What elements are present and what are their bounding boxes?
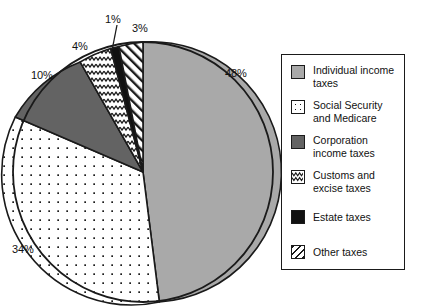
legend-item-estate-taxes[interactable]: Estate taxes [291,204,400,230]
legend-item-corporation-income-taxes[interactable]: Corporation income taxes [291,134,400,160]
legend-item-other-taxes[interactable]: Other taxes [291,239,400,265]
legend-swatch-solid-dark-gray-icon [291,135,305,149]
pie-slice-individual-income-taxes[interactable] [143,42,281,302]
legend-label-estate-taxes: Estate taxes [313,211,371,224]
legend-item-customs-and-excise-taxes[interactable]: Customs and excise taxes [291,169,400,195]
chart-legend: Individual income taxes Social Security … [281,54,405,270]
slice-label-corporation-income-taxes: 10% [31,69,53,81]
legend-swatch-solid-black-icon [291,210,305,224]
legend-label-customs-and-excise-taxes: Customs and excise taxes [313,169,375,194]
pie-svg [0,0,290,307]
pie-chart-figure: 48% 34% 10% 4% 1% 3% Individual income t… [0,0,424,307]
pie-chart-plot-area: 48% 34% 10% 4% 1% 3% [0,0,290,307]
slice-label-customs-and-excise-taxes: 4% [72,40,88,52]
legend-item-list: Individual income taxes Social Security … [291,64,400,265]
legend-swatch-solid-light-gray-icon [291,65,305,79]
slice-label-social-security-and-medicare: 34% [12,243,34,255]
legend-label-individual-income-taxes: Individual income taxes [313,64,394,89]
legend-label-other-taxes: Other taxes [313,246,367,259]
legend-label-social-security-and-medicare: Social Security and Medicare [313,99,382,124]
slice-label-estate-taxes: 1% [105,13,121,25]
legend-swatch-diagonal-hatch-icon [291,245,305,259]
legend-swatch-zigzag-icon [291,170,305,184]
slice-label-other-taxes: 3% [132,22,148,34]
legend-label-corporation-income-taxes: Corporation income taxes [313,134,375,159]
slice-label-individual-income-taxes: 48% [225,67,247,79]
legend-swatch-dots-icon [291,100,305,114]
legend-item-social-security-and-medicare[interactable]: Social Security and Medicare [291,99,400,125]
legend-item-individual-income-taxes[interactable]: Individual income taxes [291,64,400,90]
